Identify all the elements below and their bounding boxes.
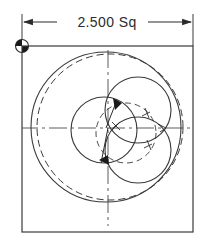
circle-pattern-group <box>20 50 196 226</box>
square-part-outline <box>22 46 193 232</box>
lower-right-tick-arrow <box>144 140 152 150</box>
upper-right-lobe-circle <box>105 77 171 143</box>
engineering-drawing-canvas: 2.500 Sq <box>0 0 215 242</box>
dimension-annotation: 2.500 Sq <box>22 14 193 46</box>
upper-right-tick-arrow <box>142 108 150 118</box>
dimension-label: 2.500 Sq <box>77 14 136 30</box>
drawing-svg: 2.500 Sq <box>0 0 215 242</box>
lower-left-leader-arrow <box>99 128 109 165</box>
center-cross-tick <box>112 122 120 130</box>
